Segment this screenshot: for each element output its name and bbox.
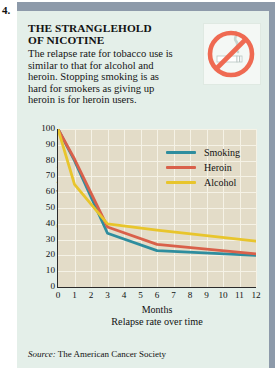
legend-swatch-heroin — [166, 166, 196, 170]
y-tick-label: 100 — [29, 124, 55, 133]
figure-number: 4. — [2, 4, 10, 16]
headline-line-2: OF NICOTINE — [28, 35, 176, 47]
no-smoking-glyph — [204, 24, 260, 84]
x-tick-label: 7 — [165, 290, 183, 300]
legend-item-heroin[interactable]: Heroin — [166, 160, 240, 175]
x-tick-label: 10 — [214, 290, 232, 300]
source-label: Source: — [28, 349, 56, 359]
chart-legend: SmokingHeroinAlcohol — [166, 145, 240, 190]
x-tick-label: 3 — [99, 290, 117, 300]
legend-label: Alcohol — [204, 177, 236, 188]
y-tick-label: 70 — [29, 171, 55, 180]
legend-swatch-alcohol — [166, 181, 196, 185]
y-tick-label: 60 — [29, 187, 55, 196]
y-tick-label: 90 — [29, 140, 55, 149]
no-smoking-icon — [203, 23, 261, 85]
figure-panel: THE STRANGLEHOLD OF NICOTINE The relapse… — [17, 2, 275, 368]
chart-caption: Relapse rate over time — [38, 316, 276, 327]
x-tick-label: 4 — [115, 290, 133, 300]
x-tick-label: 12 — [247, 290, 265, 300]
y-tick-label: 80 — [29, 156, 55, 165]
x-axis-ticks: 0123456789101112 — [58, 290, 256, 304]
x-tick-label: 5 — [132, 290, 150, 300]
description-text: The relapse rate for tobacco use is simi… — [28, 48, 178, 106]
x-axis-line — [57, 287, 256, 288]
panel-top-bar — [17, 2, 275, 11]
legend-label: Heroin — [204, 162, 232, 173]
y-axis-ticks: 0102030405060708090100 — [28, 129, 55, 287]
header-block: THE STRANGLEHOLD OF NICOTINE The relapse… — [28, 23, 260, 106]
headline-line-1: THE STRANGLEHOLD — [28, 23, 176, 35]
x-tick-label: 0 — [49, 290, 67, 300]
panel-inner: THE STRANGLEHOLD OF NICOTINE The relapse… — [17, 11, 269, 368]
y-tick-label: 50 — [29, 203, 55, 212]
relapse-rate-chart: Percent of abstainers 010203040506070809… — [28, 129, 264, 334]
x-tick-label: 9 — [198, 290, 216, 300]
y-tick-label: 20 — [29, 250, 55, 259]
y-tick-label: 10 — [29, 266, 55, 275]
x-tick-label: 2 — [82, 290, 100, 300]
grid-line-vertical — [256, 129, 257, 287]
y-tick-label: 30 — [29, 235, 55, 244]
legend-swatch-smoking — [166, 151, 196, 155]
y-tick-label: 40 — [29, 219, 55, 228]
x-tick-label: 6 — [148, 290, 166, 300]
legend-item-alcohol[interactable]: Alcohol — [166, 175, 240, 190]
legend-item-smoking[interactable]: Smoking — [166, 145, 240, 160]
source-text: The American Cancer Society — [58, 349, 166, 359]
x-axis-label: Months — [58, 304, 256, 315]
legend-label: Smoking — [204, 147, 240, 158]
page-title: THE STRANGLEHOLD OF NICOTINE — [28, 23, 176, 46]
x-tick-label: 11 — [231, 290, 249, 300]
plot-area: SmokingHeroinAlcohol — [58, 129, 256, 287]
panel-right-bar — [269, 2, 275, 368]
x-tick-label: 8 — [181, 290, 199, 300]
source-note: Source: The American Cancer Society — [28, 349, 166, 359]
x-tick-label: 1 — [66, 290, 84, 300]
